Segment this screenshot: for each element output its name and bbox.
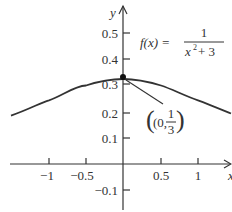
point-marker [120,74,126,80]
function-numerator: 1 [201,25,208,40]
point-annotation-paren-close: ) [176,105,185,134]
y-tick-label: 0.2 [102,106,118,121]
y-axis-label: y [108,5,116,20]
function-curve [11,79,231,116]
x-tick-label: 1 [195,168,202,183]
x-tick-label: −0.5 [70,168,94,183]
function-label: f(x) = [140,35,170,50]
y-tick-label: 0.5 [102,26,118,41]
point-annotation-num: 1 [168,106,175,121]
y-ticks [123,33,130,190]
function-denominator-rest: + 3 [198,44,215,59]
y-tick-label: 0.1 [102,131,118,146]
function-denominator: x [184,44,191,59]
x-axis-label: x [227,168,232,183]
x-tick-label: −1 [40,168,54,183]
x-tick-label: 0.5 [153,168,169,183]
function-graph: 0.5 0.4 0.3 0.2 0.1 −0.1 −1 −0.5 0.5 1 y… [0,0,232,212]
point-annotation-x: (0, [153,115,167,130]
y-tick-label: −0.1 [94,183,118,198]
y-tick-label: 0.3 [102,77,118,92]
function-denominator-exponent: 2 [193,43,197,52]
y-tick-label: 0.4 [102,52,119,67]
point-annotation-den: 3 [168,122,175,137]
